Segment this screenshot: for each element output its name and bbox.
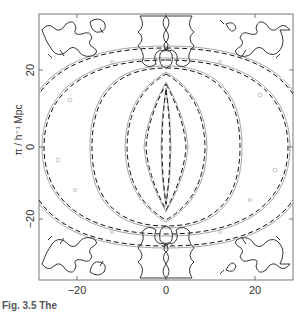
x-tick-label: 0 (163, 284, 169, 296)
y-axis-title: π / h⁻¹ Mpc (13, 105, 24, 156)
x-tick-label: 20 (249, 284, 261, 296)
x-tick-label: −20 (68, 284, 87, 296)
plot-frame (39, 14, 293, 280)
y-tick-label: 0 (24, 144, 36, 150)
y-tick-label: −20 (24, 210, 36, 229)
figure-caption: Fig. 3.5 The (2, 300, 57, 311)
contour-plot: −20 0 20 20 0 −20 σ / h⁻¹ Mpc π / h⁻¹ Mp… (0, 0, 299, 300)
y-tick-label: 20 (24, 64, 36, 76)
